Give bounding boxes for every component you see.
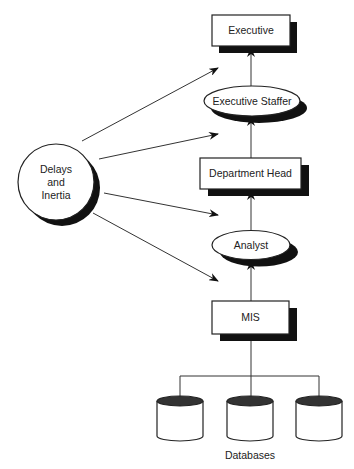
delays-line: Delays (18, 163, 94, 176)
arrow-delays-2 (99, 134, 218, 159)
diagram-canvas (0, 0, 354, 469)
arrow-delays-3 (104, 193, 218, 215)
and-line: and (18, 176, 94, 189)
arrow-delays-1 (82, 68, 218, 141)
inertia-line: Inertia (18, 189, 94, 202)
databases-label: Databases (210, 449, 290, 462)
database-icon (157, 396, 203, 441)
department-head-label: Department Head (200, 167, 301, 180)
executive-label: Executive (212, 24, 290, 37)
database-cylinders (157, 396, 342, 441)
influence-arrows (82, 68, 218, 281)
analyst-label: Analyst (212, 239, 290, 252)
mis-label: MIS (212, 311, 289, 324)
database-icon (227, 396, 273, 441)
executive-staffer-label: Executive Staffer (204, 95, 300, 108)
arrow-delays-4 (93, 213, 218, 281)
database-icon (296, 396, 342, 441)
delays-inertia-label: Delays and Inertia (18, 163, 94, 202)
